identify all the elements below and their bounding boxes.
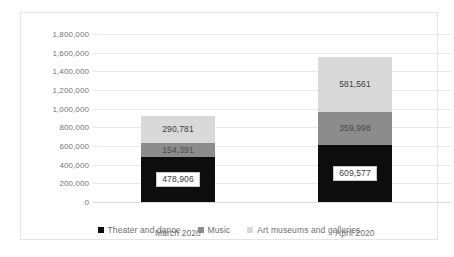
bar-value-label: 359,998 xyxy=(339,123,370,133)
plot-area: 290,781 154,391 478,906 581,561 359,998 … xyxy=(93,34,451,202)
legend-label: Theater and dance xyxy=(108,225,181,235)
y-axis-tick: 200,000 xyxy=(59,179,89,188)
y-axis: 1,800,000 1,600,000 1,400,000 1,200,000 … xyxy=(41,34,89,202)
gridline xyxy=(93,34,451,35)
bar-segment-theater-and-dance[interactable]: 478,906 xyxy=(141,157,215,202)
bar-segment-music[interactable]: 154,391 xyxy=(141,143,215,157)
bar-value-label: 290,781 xyxy=(162,124,193,134)
legend-label: Music xyxy=(208,225,231,235)
legend-swatch-icon xyxy=(247,227,253,233)
bar-segment-art-museums-and-galleries[interactable]: 581,561 xyxy=(318,57,392,111)
bar-value-label: 609,577 xyxy=(333,166,376,181)
bar-column-march-2020[interactable]: 290,781 154,391 478,906 xyxy=(141,116,215,202)
y-axis-tick: 1,200,000 xyxy=(53,85,90,94)
gridline xyxy=(93,71,451,72)
y-axis-tick: 1,000,000 xyxy=(53,104,90,113)
y-axis-tick: 1,400,000 xyxy=(53,67,90,76)
legend-swatch-icon xyxy=(98,227,104,233)
legend-item-music[interactable]: Music xyxy=(198,225,231,235)
gridline xyxy=(93,90,451,91)
gridline xyxy=(93,53,451,54)
legend-item-theater-and-dance[interactable]: Theater and dance xyxy=(98,225,181,235)
y-axis-tick: 1,600,000 xyxy=(53,48,90,57)
bar-segment-art-museums-and-galleries[interactable]: 290,781 xyxy=(141,116,215,143)
bar-value-label: 581,561 xyxy=(339,79,370,89)
bar-segment-theater-and-dance[interactable]: 609,577 xyxy=(318,145,392,202)
y-axis-tick: 0 xyxy=(84,198,89,207)
y-axis-tick: 800,000 xyxy=(59,123,89,132)
axis-baseline xyxy=(93,202,451,203)
legend-swatch-icon xyxy=(198,227,204,233)
y-axis-tick: 400,000 xyxy=(59,160,89,169)
bar-segment-music[interactable]: 359,998 xyxy=(318,112,392,146)
bar-value-label: 154,391 xyxy=(162,145,193,155)
legend-label: Art museums and galleries xyxy=(257,225,360,235)
legend-item-art-museums-and-galleries[interactable]: Art museums and galleries xyxy=(247,225,360,235)
y-axis-tick: 600,000 xyxy=(59,141,89,150)
bar-column-april-2020[interactable]: 581,561 359,998 609,577 xyxy=(318,57,392,202)
chart-container: 1,800,000 1,600,000 1,400,000 1,200,000 … xyxy=(20,12,438,240)
y-axis-tick: 1,800,000 xyxy=(53,30,90,39)
chart-legend: Theater and dance Music Art museums and … xyxy=(21,225,437,235)
gridline xyxy=(93,109,451,110)
bar-value-label: 478,906 xyxy=(156,172,199,187)
